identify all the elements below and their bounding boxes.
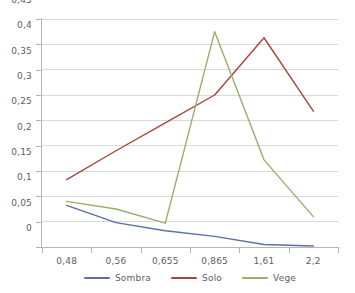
x-axis-tick <box>190 248 191 253</box>
y-axis-tick <box>36 222 41 223</box>
y-axis-tick <box>36 196 41 197</box>
y-axis-tick <box>36 70 41 71</box>
x-tick-label: 1,61 <box>254 256 275 266</box>
y-tick-label: 0,1 <box>17 173 32 182</box>
series-lines <box>42 19 338 247</box>
x-tick-label: 0,655 <box>152 256 179 266</box>
x-axis-tick <box>338 248 339 253</box>
x-axis-tick <box>289 248 290 253</box>
y-axis-tick <box>36 171 41 172</box>
y-tick-label: 0,45 <box>11 0 32 5</box>
legend-entry-sombra[interactable]: Sombra <box>84 273 151 283</box>
legend-swatch-icon <box>242 277 268 279</box>
legend-entry-vege[interactable]: Vege <box>242 273 296 283</box>
y-axis-tick <box>36 44 41 45</box>
legend-label: Sombra <box>115 273 151 283</box>
x-axis-tick <box>239 248 240 253</box>
plot-area <box>42 19 338 247</box>
y-tick-label: 0,3 <box>17 72 32 81</box>
y-tick-label: 0,2 <box>17 122 32 131</box>
y-tick-label: 0 <box>26 224 32 233</box>
line-chart: 0,450,40,350,30,250,20,150,10,050 0,480,… <box>0 0 355 293</box>
x-axis-tick <box>141 248 142 253</box>
legend-swatch-icon <box>84 277 110 279</box>
y-tick-label: 0,4 <box>17 21 32 30</box>
y-axis-tick <box>36 95 41 96</box>
y-tick-label: 0,35 <box>11 46 32 55</box>
x-tick-label: 0,48 <box>56 256 77 266</box>
chart-legend: SombraSoloVege <box>42 271 338 285</box>
y-axis-labels: 0,450,40,350,30,250,20,150,10,050 <box>0 0 38 228</box>
y-axis-tick <box>36 120 41 121</box>
y-axis-tick <box>36 146 41 147</box>
x-axis-tick <box>42 248 43 253</box>
y-tick-label: 0,15 <box>11 148 32 157</box>
legend-label: Vege <box>273 273 296 283</box>
x-axis-tick <box>91 248 92 253</box>
x-tick-label: 0,865 <box>201 256 228 266</box>
y-axis-tick <box>36 19 41 20</box>
x-tick-label: 0,56 <box>106 256 127 266</box>
legend-swatch-icon <box>171 277 197 279</box>
x-tick-label: 2,2 <box>306 256 321 266</box>
legend-entry-solo[interactable]: Solo <box>171 273 222 283</box>
series-line-vege <box>67 32 314 224</box>
y-tick-label: 0,05 <box>11 198 32 207</box>
series-line-sombra <box>67 205 314 246</box>
y-axis-tick <box>36 247 41 248</box>
legend-label: Solo <box>202 273 222 283</box>
series-line-solo <box>67 38 314 180</box>
y-tick-label: 0,25 <box>11 97 32 106</box>
